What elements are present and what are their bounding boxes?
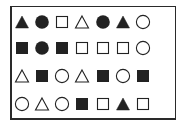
circle-outline-icon xyxy=(54,96,70,112)
circle-filled-icon xyxy=(95,14,111,30)
square-filled-icon xyxy=(54,40,70,56)
circle-filled-icon xyxy=(34,40,50,56)
circle-filled-icon xyxy=(34,14,50,30)
square-filled-icon xyxy=(14,40,30,56)
circle-outline-icon xyxy=(135,40,151,56)
triangle-outline-icon xyxy=(14,68,30,84)
square-outline-icon xyxy=(95,40,111,56)
circle-outline-icon xyxy=(14,96,30,112)
shape-grid xyxy=(10,6,175,119)
square-outline-icon xyxy=(115,40,131,56)
triangle-filled-icon xyxy=(14,14,30,30)
square-filled-icon xyxy=(95,68,111,84)
triangle-filled-icon xyxy=(115,14,131,30)
square-outline-icon xyxy=(54,14,70,30)
square-outline-icon xyxy=(74,40,90,56)
square-filled-icon xyxy=(34,68,50,84)
square-filled-icon xyxy=(135,68,151,84)
triangle-outline-icon xyxy=(74,14,90,30)
square-outline-icon xyxy=(135,96,151,112)
circle-outline-icon xyxy=(135,14,151,30)
square-outline-icon xyxy=(95,96,111,112)
triangle-outline-icon xyxy=(34,96,50,112)
triangle-filled-icon xyxy=(115,96,131,112)
square-filled-icon xyxy=(74,96,90,112)
circle-outline-icon xyxy=(54,68,70,84)
triangle-outline-icon xyxy=(74,68,90,84)
circle-outline-icon xyxy=(115,68,131,84)
